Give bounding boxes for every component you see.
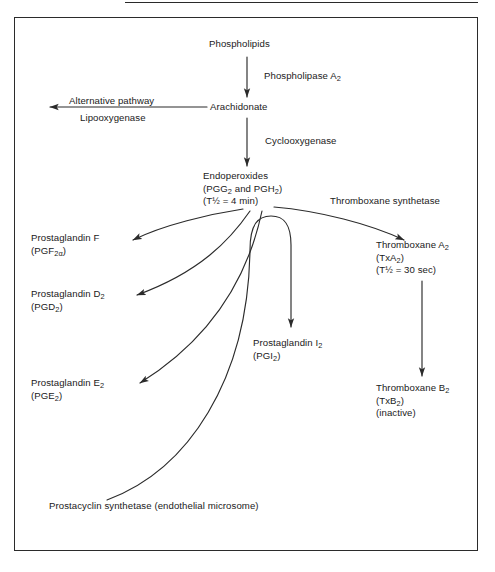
label-cyclooxygenase: Cyclooxygenase: [265, 135, 337, 148]
label-prostacyclin-synthetase: Prostacyclin synthetase (endothelial mic…: [49, 500, 259, 513]
node-thromboxane-a2-label: Thromboxane A2: [376, 239, 449, 252]
node-thromboxane-b2-formula: (TxB2): [376, 395, 450, 408]
label-thromboxane-synthetase: Thromboxane synthetase: [330, 195, 440, 208]
label-alternative-pathway: Alternative pathway: [69, 95, 154, 108]
node-phospholipids-label: Phospholipids: [209, 38, 270, 51]
node-thromboxane-a2: Thromboxane A2 (TxA2) (T½ = 30 sec): [376, 239, 449, 277]
pathway-figure: Phospholipids Arachidonate Endoperoxides…: [0, 0, 495, 572]
node-phospholipids: Phospholipids: [209, 38, 270, 51]
node-thromboxane-a2-halflife: (T½ = 30 sec): [376, 264, 449, 277]
node-thromboxane-b2-label: Thromboxane B2: [376, 382, 450, 395]
label-phospholipase-a2: Phospholipase A2: [264, 70, 341, 83]
node-thromboxane-a2-formula: (TxA2): [376, 252, 449, 265]
node-endoperoxides: Endoperoxides (PGG2 and PGH2) (T½ = 4 mi…: [203, 170, 282, 208]
label-prostacyclin-synthetase-line2: (endothelial microsome): [154, 500, 258, 511]
node-prostaglandin-i2: Prostaglandin I2 (PGI2): [253, 337, 322, 362]
label-prostacyclin-synthetase-line1: Prostacyclin synthetase: [49, 500, 152, 511]
node-arachidonate-label: Arachidonate: [210, 101, 268, 114]
node-prostaglandin-e2: Prostaglandin E2 (PGE2): [31, 377, 104, 402]
label-lipooxygenase: Lipooxygenase: [80, 112, 146, 125]
node-endoperoxides-label: Endoperoxides: [203, 170, 282, 183]
node-prostaglandin-f: Prostaglandin F (PGF2α): [31, 232, 99, 257]
top-rule-divider: [125, 2, 478, 3]
node-prostaglandin-d2-formula: (PGD2): [31, 301, 105, 314]
node-prostaglandin-d2: Prostaglandin D2 (PGD2): [31, 288, 105, 313]
node-arachidonate: Arachidonate: [210, 101, 268, 114]
node-prostaglandin-i2-label: Prostaglandin I2: [253, 337, 322, 350]
node-thromboxane-b2-state: (inactive): [376, 407, 450, 420]
node-endoperoxides-formula: (PGG2 and PGH2): [203, 183, 282, 196]
node-prostaglandin-d2-label: Prostaglandin D2: [31, 288, 105, 301]
node-prostaglandin-e2-label: Prostaglandin E2: [31, 377, 104, 390]
node-prostaglandin-f-label: Prostaglandin F: [31, 232, 99, 245]
node-endoperoxides-halflife: (T½ = 4 min): [203, 195, 282, 208]
node-prostaglandin-e2-formula: (PGE2): [31, 390, 104, 403]
node-prostaglandin-i2-formula: (PGI2): [253, 350, 322, 363]
node-thromboxane-b2: Thromboxane B2 (TxB2) (inactive): [376, 382, 450, 420]
node-prostaglandin-f-formula: (PGF2α): [31, 245, 99, 258]
